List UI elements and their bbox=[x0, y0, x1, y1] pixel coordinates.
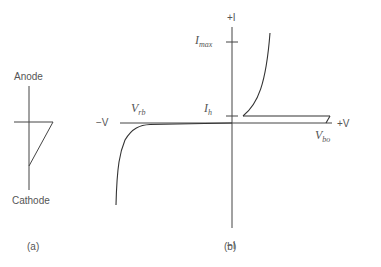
diode-triangle-edge bbox=[29, 122, 53, 166]
caption-b-text: (b) bbox=[224, 241, 236, 252]
neg-voltage-label: −V bbox=[96, 118, 109, 128]
pos-voltage-label: +V bbox=[337, 119, 350, 129]
caption-a: (a) bbox=[27, 242, 39, 252]
on-state-curve bbox=[243, 33, 270, 116]
vbo-label: Vbo bbox=[315, 129, 330, 144]
imax-sub: max bbox=[199, 40, 212, 49]
iv-curve bbox=[116, 33, 330, 205]
vbo-sub: bo bbox=[322, 135, 330, 144]
vrb-label: Vrb bbox=[131, 102, 145, 117]
ih-label: Ih bbox=[204, 102, 212, 117]
diode-symbol bbox=[14, 86, 53, 190]
cathode-label: Cathode bbox=[12, 196, 50, 206]
vrb-sub: rb bbox=[138, 108, 145, 117]
imax-label: Imax bbox=[195, 34, 212, 49]
reverse-curve bbox=[116, 123, 232, 205]
caption-b: (b) bbox=[226, 242, 238, 252]
pos-current-label: +I bbox=[227, 13, 236, 23]
ih-sub: h bbox=[208, 108, 212, 117]
iv-axes bbox=[120, 27, 332, 228]
anode-label: Anode bbox=[14, 72, 43, 82]
breakover-knee bbox=[326, 116, 330, 123]
